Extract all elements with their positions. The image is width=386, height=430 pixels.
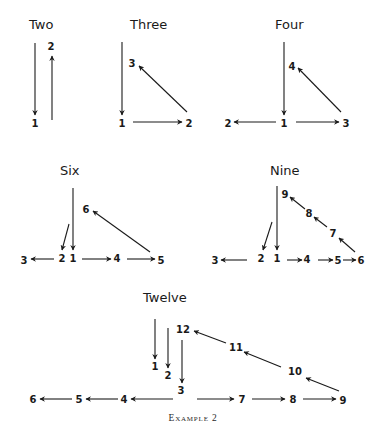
node-3: 3	[178, 385, 185, 396]
node-2: 2	[258, 253, 265, 264]
node-4: 4	[114, 253, 121, 264]
arrow-2-to-3	[139, 66, 187, 112]
node-11: 11	[229, 342, 243, 353]
node-3: 3	[212, 255, 219, 266]
diagram-title: Six	[60, 163, 80, 178]
node-9: 9	[282, 189, 289, 200]
node-5: 5	[335, 255, 342, 266]
node-1: 1	[281, 118, 288, 129]
diagram-title: Four	[275, 17, 304, 32]
node-3: 3	[343, 118, 350, 129]
diagram-three: Three 1 2 3	[119, 17, 193, 129]
node-10: 10	[288, 366, 302, 377]
arrow-11-to-12	[194, 331, 226, 343]
node-3: 3	[21, 255, 28, 266]
node-5: 5	[76, 394, 83, 405]
node-2: 2	[165, 370, 172, 381]
node-4: 4	[289, 61, 296, 72]
diagram-nine: Nine 2 1 3 4 5 6 7 8 9	[212, 163, 365, 266]
arrow-7-to-8	[314, 217, 327, 227]
node-1: 1	[152, 361, 159, 372]
diagram-four: Four 1 2 3 4	[225, 17, 350, 129]
arrow-down-to-2	[263, 222, 272, 250]
arrow-down-to-2	[62, 224, 69, 250]
arrow-5-to-6	[93, 211, 150, 252]
node-6: 6	[358, 255, 365, 266]
figure-caption: Example 2	[169, 413, 218, 423]
diagram-title: Nine	[270, 163, 300, 178]
arrow-8-to-9	[290, 197, 305, 209]
node-12: 12	[176, 324, 190, 335]
node-1: 1	[274, 253, 281, 264]
node-2: 2	[186, 118, 193, 129]
node-5: 5	[158, 255, 165, 266]
example-2-figure: Two 1 2 Three 1 2 3 Four 1 2 3 4 Six 2 1…	[0, 0, 386, 430]
diagram-six: Six 2 1 3 4 5 6	[21, 163, 165, 266]
arrow-9-to-10	[306, 378, 339, 391]
node-2: 2	[48, 41, 55, 52]
node-1: 1	[70, 253, 77, 264]
arrow-6-to-7	[339, 238, 355, 252]
node-8: 8	[306, 208, 313, 219]
node-3: 3	[129, 58, 136, 69]
node-2: 2	[59, 253, 66, 264]
node-7: 7	[330, 228, 337, 239]
diagram-two: Two 1 2	[28, 17, 55, 129]
node-7: 7	[239, 394, 246, 405]
diagram-title: Two	[28, 17, 53, 32]
node-8: 8	[290, 394, 297, 405]
node-4: 4	[121, 394, 128, 405]
diagram-title: Twelve	[142, 290, 187, 305]
arrow-10-to-11	[244, 352, 281, 367]
diagram-title: Three	[129, 17, 167, 32]
arrow-3-to-4	[298, 68, 341, 112]
node-9: 9	[340, 395, 347, 406]
node-2: 2	[225, 118, 232, 129]
node-6: 6	[83, 204, 90, 215]
node-4: 4	[304, 254, 311, 265]
node-6: 6	[30, 394, 37, 405]
node-1: 1	[32, 118, 39, 129]
diagram-twelve: Twelve 1 2 12 3 4 5 6 7 8 9 10 11	[30, 290, 347, 406]
node-1: 1	[119, 118, 126, 129]
